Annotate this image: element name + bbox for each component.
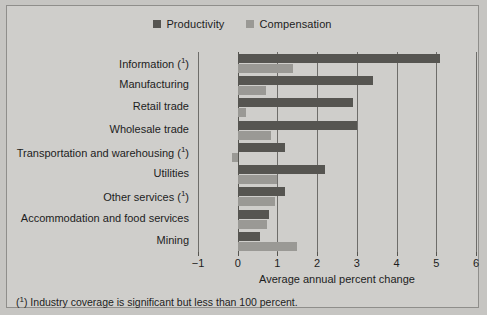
bar-compensation (238, 197, 276, 206)
x-tick-label: −1 (192, 257, 205, 269)
category-label-text: Retail trade (133, 100, 189, 112)
footnote-marker: (1) (16, 296, 27, 308)
category-label-text: Transportation and warehousing (17, 147, 174, 159)
category-label-text: Other services (103, 191, 174, 203)
bar-compensation (232, 153, 238, 162)
plot-area: −10123456Information (1)ManufacturingRet… (198, 52, 476, 252)
bar-compensation (238, 175, 278, 184)
category-label: Transportation and warehousing (1) (17, 145, 189, 159)
category-label: Manufacturing (119, 78, 189, 90)
bar-productivity (238, 210, 270, 219)
legend-swatch-icon (246, 20, 254, 28)
x-tick-1 (277, 252, 278, 256)
chart-row: Transportation and warehousing (1) (198, 141, 476, 163)
chart-row: Mining (198, 230, 476, 252)
category-label: Wholesale trade (110, 123, 190, 135)
bar-productivity (238, 54, 441, 63)
bar-compensation (238, 64, 294, 73)
x-tick-label: 2 (314, 257, 320, 269)
bar-compensation (238, 242, 298, 251)
legend-swatch-icon (153, 20, 161, 28)
x-tick-3 (357, 252, 358, 256)
category-label: Retail trade (133, 100, 189, 112)
x-tick-5 (436, 252, 437, 256)
bar-productivity (238, 121, 357, 130)
chart-figure: ProductivityCompensation −10123456Inform… (0, 0, 487, 315)
chart-row: Retail trade (198, 96, 476, 118)
legend-item-compensation: Compensation (246, 18, 331, 30)
x-tick-label: 5 (433, 257, 439, 269)
category-label-text: Mining (157, 234, 189, 246)
chart-footnote: (1) Industry coverage is significant but… (16, 294, 298, 308)
chart-row: Information (1) (198, 52, 476, 74)
category-label: Accommodation and food services (21, 212, 189, 224)
bar-productivity (238, 143, 286, 152)
legend-item-productivity: Productivity (153, 18, 224, 30)
category-label: Utilities (154, 167, 189, 179)
chart-row: Manufacturing (198, 74, 476, 96)
category-footnote-marker: (1) (174, 191, 189, 203)
x-tick-4 (397, 252, 398, 256)
category-footnote-marker: (1) (174, 58, 189, 70)
category-label-text: Information (119, 58, 174, 70)
category-label-text: Wholesale trade (110, 123, 190, 135)
chart-row: Wholesale trade (198, 119, 476, 141)
bar-productivity (238, 232, 260, 241)
x-tick-6 (476, 252, 477, 256)
footnote-text: Industry coverage is significant but les… (27, 296, 297, 308)
bar-productivity (238, 76, 373, 85)
x-tick-label: 3 (354, 257, 360, 269)
x-tick-label: 0 (235, 257, 241, 269)
legend-label: Compensation (259, 18, 331, 30)
chart-row: Other services (1) (198, 185, 476, 207)
bar-productivity (238, 187, 286, 196)
chart-legend: ProductivityCompensation (7, 18, 478, 30)
bar-compensation (238, 131, 272, 140)
chart-panel: ProductivityCompensation −10123456Inform… (6, 5, 479, 308)
category-label-text: Manufacturing (119, 78, 189, 90)
x-tick-label: 4 (394, 257, 400, 269)
category-label-text: Utilities (154, 167, 189, 179)
bar-productivity (238, 98, 353, 107)
x-tick-label: 1 (274, 257, 280, 269)
bar-compensation (238, 108, 246, 117)
category-label-text: Accommodation and food services (21, 212, 189, 224)
chart-row: Utilities (198, 163, 476, 185)
x-tick-0 (238, 252, 239, 256)
legend-label: Productivity (166, 18, 224, 30)
x-tick--1 (198, 252, 199, 256)
chart-row: Accommodation and food services (198, 208, 476, 230)
x-tick-2 (317, 252, 318, 256)
bar-compensation (238, 220, 268, 229)
bar-productivity (238, 165, 325, 174)
x-tick-label: 6 (473, 257, 479, 269)
gridline-6 (476, 52, 477, 252)
category-label: Mining (157, 234, 189, 246)
category-footnote-marker: (1) (174, 147, 189, 159)
x-axis-title: Average annual percent change (198, 273, 476, 285)
category-label: Information (1) (119, 56, 189, 70)
category-label: Other services (1) (103, 189, 189, 203)
bar-compensation (238, 86, 266, 95)
